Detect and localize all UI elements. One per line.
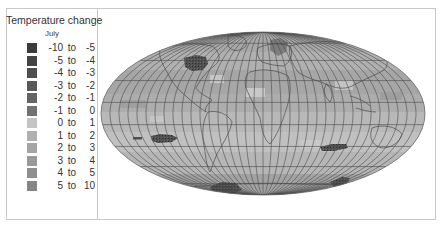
- range-low: -1: [41, 105, 63, 117]
- range-low: 1: [41, 130, 63, 142]
- range-high: 1: [81, 117, 95, 129]
- range-to: to: [63, 67, 81, 79]
- legend-range-label: -10to-5: [41, 42, 95, 54]
- range-low: -3: [41, 80, 63, 92]
- legend-range-label: -3to-2: [41, 80, 95, 92]
- range-to: to: [63, 42, 81, 54]
- range-high: 4: [81, 155, 95, 167]
- legend-swatch: [27, 143, 37, 153]
- warm-patch: [380, 92, 402, 100]
- legend-range-label: 0to1: [41, 117, 95, 129]
- range-to: to: [63, 180, 81, 192]
- range-to: to: [63, 117, 81, 129]
- legend-swatch: [27, 168, 37, 178]
- range-to: to: [63, 155, 81, 167]
- legend-range-label: -2to-1: [41, 92, 95, 104]
- legend-swatch: [27, 43, 37, 53]
- legend-item: -1to0: [27, 105, 97, 118]
- legend-swatch: [27, 181, 37, 191]
- legend-range-label: 2to3: [41, 142, 95, 154]
- legend-range-label: 5to10: [41, 180, 95, 192]
- range-low: 2: [41, 142, 63, 154]
- legend-range-label: 3to4: [41, 155, 95, 167]
- world-map: [98, 9, 435, 219]
- range-low: -5: [41, 55, 63, 67]
- legend-range-label: -4to-3: [41, 67, 95, 79]
- range-high: 0: [81, 105, 95, 117]
- range-to: to: [63, 142, 81, 154]
- legend-swatch: [27, 93, 37, 103]
- band-north-high: [98, 52, 435, 70]
- range-high: 5: [81, 167, 95, 179]
- legend-item: -2to-1: [27, 92, 97, 105]
- range-high: -2: [81, 80, 95, 92]
- range-low: 0: [41, 117, 63, 129]
- band-north-mid: [98, 70, 435, 94]
- legend-item: -5to-4: [27, 55, 97, 68]
- legend-swatch: [27, 131, 37, 141]
- mollweide-map-svg: [98, 9, 435, 219]
- range-high: -3: [81, 67, 95, 79]
- range-high: 10: [81, 180, 95, 192]
- range-to: to: [63, 167, 81, 179]
- legend-item: -10to-5: [27, 42, 97, 55]
- legend-swatch: [27, 118, 37, 128]
- range-high: -4: [81, 55, 95, 67]
- legend-item: 3to4: [27, 155, 97, 168]
- range-low: -10: [41, 42, 63, 54]
- band-tropics-s: [98, 112, 435, 132]
- range-high: -1: [81, 92, 95, 104]
- range-low: -2: [41, 92, 63, 104]
- range-high: 3: [81, 142, 95, 154]
- range-low: 5: [41, 180, 63, 192]
- legend-title: Temperature change: [6, 14, 98, 26]
- legend-item: -3to-2: [27, 80, 97, 93]
- legend-range-label: -5to-4: [41, 55, 95, 67]
- light-patch: [300, 140, 322, 148]
- range-low: 4: [41, 167, 63, 179]
- legend-subtitle: July: [6, 29, 98, 38]
- legend-item: 4to5: [27, 167, 97, 180]
- legend-swatch: [27, 68, 37, 78]
- light-patch: [150, 116, 164, 122]
- legend-swatch: [27, 56, 37, 66]
- range-low: -4: [41, 67, 63, 79]
- legend-range-label: 1to2: [41, 130, 95, 142]
- legend-swatch: [27, 156, 37, 166]
- legend-item: 5to10: [27, 180, 97, 193]
- legend-items: -10to-5-5to-4-4to-3-3to-2-2to-1-1to00to1…: [27, 42, 97, 192]
- legend-range-label: 4to5: [41, 167, 95, 179]
- light-patch: [210, 75, 224, 83]
- range-to: to: [63, 105, 81, 117]
- range-high: -5: [81, 42, 95, 54]
- range-to: to: [63, 80, 81, 92]
- legend-range-label: -1to0: [41, 105, 95, 117]
- legend-swatch: [27, 81, 37, 91]
- legend-item: 1to2: [27, 130, 97, 143]
- warm-patch: [120, 100, 146, 108]
- legend-item: -4to-3: [27, 67, 97, 80]
- range-to: to: [63, 130, 81, 142]
- range-to: to: [63, 92, 81, 104]
- legend-item: 2to3: [27, 142, 97, 155]
- range-to: to: [63, 55, 81, 67]
- legend-swatch: [27, 106, 37, 116]
- legend-item: 0to1: [27, 117, 97, 130]
- range-low: 3: [41, 155, 63, 167]
- range-high: 2: [81, 130, 95, 142]
- legend-panel: Temperature change July -10to-5-5to-4-4t…: [6, 8, 98, 220]
